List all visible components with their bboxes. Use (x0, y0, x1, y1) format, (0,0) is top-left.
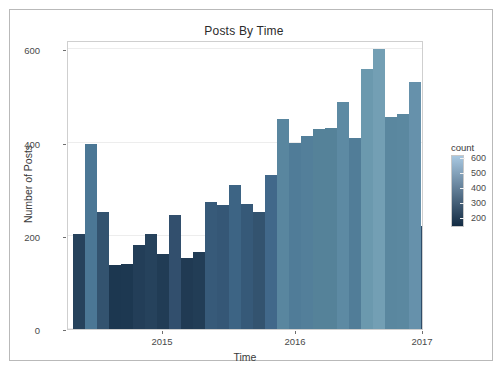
bar (193, 252, 205, 329)
chart-title: Posts By Time (65, 24, 423, 38)
bar (349, 138, 361, 329)
y-tick-mark (63, 237, 66, 238)
bar (265, 175, 277, 329)
x-tick-mark (295, 331, 296, 334)
y-tick-label: 600 (24, 45, 40, 56)
figure-frame: Posts By Time 0200400600 Number of Posts… (9, 9, 493, 361)
bar (301, 136, 313, 329)
bar (121, 264, 133, 329)
legend-tick-label: 200 (471, 213, 486, 223)
bar (217, 205, 229, 329)
bar (289, 143, 301, 329)
x-tick-mark (422, 331, 423, 334)
y-tick-label: 0 (35, 325, 40, 336)
x-tick-label: 2016 (284, 336, 305, 347)
bar-series (68, 42, 422, 329)
y-tick-mark (63, 144, 66, 145)
bar (229, 185, 241, 329)
bar (181, 258, 193, 329)
bar (73, 234, 85, 329)
y-axis-title: Number of Posts (22, 144, 34, 224)
legend-tick-mark (460, 158, 465, 159)
bar (337, 102, 349, 329)
bar (373, 49, 385, 329)
plot-panel (67, 41, 423, 330)
bar (385, 117, 397, 329)
bar (169, 215, 181, 329)
bar (253, 212, 265, 329)
y-tick-mark (63, 330, 66, 331)
legend-colorbar (451, 155, 464, 227)
chart-screenshot: Posts By Time 0200400600 Number of Posts… (0, 0, 502, 379)
legend-tick-mark (460, 203, 465, 204)
bar (133, 245, 145, 329)
bar (145, 234, 157, 329)
bar (325, 128, 337, 329)
legend-tick-mark (460, 173, 465, 174)
bar (97, 212, 109, 329)
x-tick-mark (162, 331, 163, 334)
bar (109, 265, 121, 329)
bar (205, 202, 217, 329)
legend-tick-label: 600 (471, 153, 486, 163)
legend-tick-label: 300 (471, 198, 486, 208)
legend-tick-mark (460, 188, 465, 189)
bar (313, 129, 325, 329)
x-tick-label: 2015 (151, 336, 172, 347)
legend-tick-label: 500 (471, 168, 486, 178)
bar (157, 254, 169, 329)
bar (409, 82, 421, 329)
bar (277, 119, 289, 329)
bar (241, 204, 253, 329)
plot-area (68, 42, 422, 329)
bar (85, 144, 97, 329)
x-tick-label: 2017 (411, 336, 432, 347)
y-tick-label: 200 (24, 231, 40, 242)
y-tick-mark (63, 50, 66, 51)
legend-tick-mark (460, 218, 465, 219)
legend-tick-label: 400 (471, 183, 486, 193)
x-axis-title: Time (67, 351, 423, 363)
legend-title: count (451, 142, 474, 153)
bar (361, 69, 373, 329)
bar (397, 114, 409, 329)
bar (421, 226, 422, 329)
